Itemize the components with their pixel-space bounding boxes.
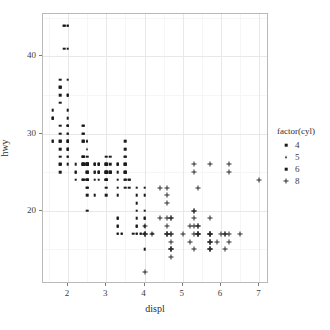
- data-point-cyl-8: [157, 185, 162, 190]
- data-point-cyl-8: [192, 216, 197, 221]
- data-point-cyl-4: [67, 109, 70, 112]
- data-point-cyl-6: [136, 202, 139, 205]
- data-point-cyl-6: [105, 186, 108, 189]
- legend-item-4[interactable]: 4: [277, 139, 329, 151]
- y-tick-mark: [39, 55, 42, 56]
- data-point-cyl-6: [97, 179, 100, 182]
- grid-line-minor-vertical: [202, 14, 203, 282]
- data-point-cyl-6: [116, 233, 119, 236]
- data-point-cyl-4: [86, 179, 89, 182]
- data-point-cyl-8: [207, 239, 212, 244]
- data-point-cyl-6: [136, 186, 139, 189]
- data-point-cyl-8: [180, 231, 185, 236]
- legend-items: 4568: [277, 139, 329, 187]
- data-point-cyl-8: [226, 162, 231, 167]
- data-point-cyl-6: [97, 163, 100, 166]
- data-point-cyl-6: [97, 171, 100, 174]
- data-point-cyl-6: [124, 186, 127, 189]
- data-point-cyl-8: [257, 177, 262, 182]
- data-point-cyl-6: [116, 163, 119, 166]
- x-tick-label: 5: [180, 288, 185, 298]
- data-point-cyl-4: [74, 179, 77, 182]
- data-point-cyl-4: [67, 47, 70, 50]
- data-point-cyl-6: [105, 171, 108, 174]
- data-point-cyl-6: [124, 155, 127, 158]
- x-tick-mark: [67, 283, 68, 286]
- grid-line-major-vertical: [259, 14, 260, 282]
- data-point-cyl-4: [59, 94, 62, 97]
- legend-item-label: 5: [295, 153, 300, 162]
- data-point-cyl-6: [124, 163, 127, 166]
- legend-item-6[interactable]: 6: [277, 163, 329, 175]
- legend-item-8[interactable]: 8: [277, 175, 329, 187]
- x-tick-label: 4: [141, 288, 146, 298]
- data-point-cyl-4: [59, 155, 62, 158]
- data-point-cyl-4: [59, 125, 62, 128]
- data-point-cyl-6: [93, 171, 96, 174]
- legend-item-label: 4: [295, 141, 300, 150]
- legend-item-5[interactable]: 5: [277, 151, 329, 163]
- data-point-cyl-6: [136, 209, 139, 212]
- data-point-cyl-8: [226, 239, 231, 244]
- data-point-cyl-8: [192, 170, 197, 175]
- y-axis-label: hwy: [0, 139, 10, 156]
- data-point-cyl-4: [93, 179, 96, 182]
- data-point-cyl-6: [105, 179, 108, 182]
- legend: factor(cyl) 4568: [277, 126, 329, 187]
- data-point-cyl-6: [116, 171, 119, 174]
- data-point-cyl-4: [59, 140, 62, 143]
- data-point-cyl-8: [169, 247, 174, 252]
- data-point-cyl-8: [192, 162, 197, 167]
- data-point-cyl-6: [143, 186, 146, 189]
- data-point-cyl-8: [192, 231, 197, 236]
- data-point-cyl-4: [74, 171, 77, 174]
- data-point-cyl-4: [67, 163, 70, 166]
- grid-line-minor-vertical: [164, 14, 165, 282]
- data-point-cyl-6: [132, 233, 135, 236]
- data-point-cyl-6: [120, 233, 123, 236]
- data-point-cyl-8: [165, 231, 170, 236]
- grid-line-major-horizontal: [43, 211, 267, 212]
- grid-line-major-vertical: [145, 14, 146, 282]
- data-point-cyl-8: [226, 170, 231, 175]
- data-point-cyl-6: [136, 233, 139, 236]
- data-point-cyl-8: [222, 247, 227, 252]
- data-point-cyl-4: [67, 24, 70, 27]
- data-point-cyl-6: [124, 148, 127, 151]
- data-point-cyl-4: [59, 132, 62, 135]
- data-point-cyl-6: [105, 155, 108, 158]
- x-tick-mark: [105, 283, 106, 286]
- data-point-cyl-6: [136, 217, 139, 220]
- data-point-cyl-4: [86, 194, 89, 197]
- data-point-cyl-4: [86, 163, 89, 166]
- data-point-cyl-4: [82, 140, 85, 143]
- data-point-cyl-8: [165, 224, 170, 229]
- data-point-cyl-8: [215, 239, 220, 244]
- data-point-cyl-8: [169, 239, 174, 244]
- data-point-cyl-8: [169, 216, 174, 221]
- data-point-cyl-6: [109, 163, 112, 166]
- data-point-cyl-6: [116, 194, 119, 197]
- x-tick-mark: [182, 283, 183, 286]
- data-point-cyl-8: [192, 247, 197, 252]
- plus-marker-icon: [281, 176, 291, 186]
- data-point-cyl-4: [67, 78, 70, 81]
- grid-line-major-horizontal: [43, 134, 267, 135]
- data-point-cyl-4: [74, 163, 77, 166]
- x-tick-label: 3: [103, 288, 108, 298]
- data-point-cyl-6: [128, 179, 131, 182]
- y-tick-label: 30: [27, 128, 36, 138]
- data-point-cyl-8: [207, 247, 212, 252]
- grid-line-minor-vertical: [240, 14, 241, 282]
- data-point-cyl-6: [93, 163, 96, 166]
- data-point-cyl-6: [109, 155, 112, 158]
- y-tick-mark: [39, 210, 42, 211]
- plot-panel: [42, 13, 268, 283]
- grid-line-minor-vertical: [49, 14, 50, 282]
- square-marker-icon: [281, 164, 291, 174]
- data-point-cyl-4: [86, 155, 89, 158]
- data-point-cyl-6: [105, 163, 108, 166]
- data-point-cyl-5: [86, 147, 88, 150]
- legend-item-label: 6: [295, 165, 300, 174]
- data-point-cyl-8: [169, 255, 174, 260]
